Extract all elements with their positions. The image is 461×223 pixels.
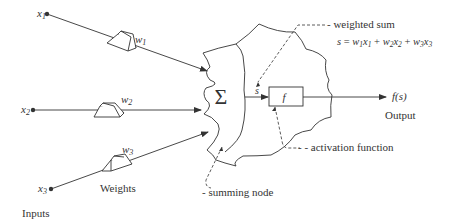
weight-block-1-icon <box>107 31 136 51</box>
activation-function-label: - - activation function <box>298 141 394 153</box>
input-label-2: x2 <box>20 103 30 117</box>
activation-function-box <box>269 87 303 106</box>
weight-label-1: w1 <box>135 33 146 47</box>
summing-node-label: - summing node <box>202 186 274 198</box>
weight-block-2-icon <box>94 103 124 117</box>
input-label-1: x1 <box>36 7 46 21</box>
input-label-3: x3 <box>37 182 47 196</box>
weights-label: Weights <box>100 182 136 194</box>
output-value-label: f(s) <box>392 90 407 103</box>
inputs-label: Inputs <box>22 207 50 219</box>
neuron-diagram: Σ s f f(s) Output - weighted sum - - act… <box>0 0 461 223</box>
weighted-sum-formula: s = w1x1 + w2x2 + w3x3 <box>337 36 432 49</box>
output-label: Output <box>385 109 416 121</box>
weight-label-2: w2 <box>121 93 132 107</box>
weight-block-3-icon <box>102 154 132 171</box>
sigma-symbol: Σ <box>215 84 228 109</box>
weighted-sum-label: - weighted sum <box>327 18 395 30</box>
weight-label-3: w3 <box>122 143 133 157</box>
